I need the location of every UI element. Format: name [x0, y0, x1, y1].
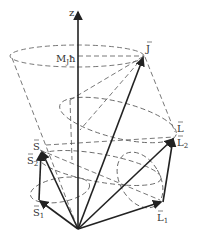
L-label: L: [177, 123, 184, 134]
S1-label: S1: [33, 207, 44, 220]
label-vector-arrows: [28, 42, 183, 211]
vectors: [39, 12, 173, 229]
L1-label: L1: [157, 212, 168, 225]
L2-label: L2: [177, 137, 188, 150]
vector-J: [78, 58, 143, 229]
diagram-canvas: z MJħ J L L2 L1 S S2 S1: [0, 0, 199, 242]
S-label: S: [33, 141, 40, 152]
j-precession-cone: [10, 45, 175, 229]
vector-L2: [163, 139, 173, 202]
vector-coupling-diagram: z MJħ J L L2 L1 S S2 S1: [0, 0, 199, 242]
projection-label: MJħ: [56, 53, 76, 66]
vector-L1: [78, 202, 161, 229]
S2-label: S2: [27, 155, 38, 168]
z-axis-label: z: [69, 7, 74, 18]
l-precession-cone: [55, 56, 180, 160]
J-label: J: [145, 43, 150, 54]
